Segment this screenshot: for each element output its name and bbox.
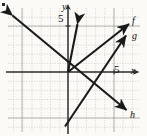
curve-label-h: h xyxy=(130,110,135,120)
x-axis-tick-label-5: 5 xyxy=(114,64,120,75)
coordinate-plane xyxy=(0,0,147,136)
x-axis-label: x xyxy=(131,66,135,76)
curve-label-f: f xyxy=(132,16,135,26)
y-axis-tick-label-5: 5 xyxy=(58,13,64,24)
curve-label-g: g xyxy=(132,31,137,41)
y-axis-label: y xyxy=(62,2,66,12)
graph-figure: y 5 x 5 f g h xyxy=(0,0,147,136)
